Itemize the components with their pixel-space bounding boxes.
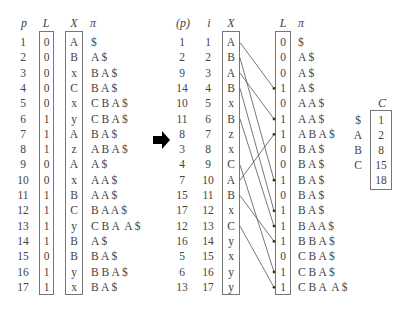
C-symbol-label	[352, 173, 364, 188]
C-value-cell: 2	[370, 128, 392, 143]
header-C: C	[372, 96, 392, 111]
C-value-cell: 8	[370, 143, 392, 158]
C-value-cell: 1	[370, 113, 392, 128]
C-value-cell: 15	[370, 158, 392, 173]
C-symbol-label: $	[352, 113, 364, 128]
C-symbol-label: A	[352, 128, 364, 143]
lf-mapping-arrows	[0, 0, 412, 313]
C-symbol-label: B	[352, 143, 364, 158]
C-symbol-label: C	[352, 158, 364, 173]
C-value-cell: 18	[370, 173, 392, 188]
